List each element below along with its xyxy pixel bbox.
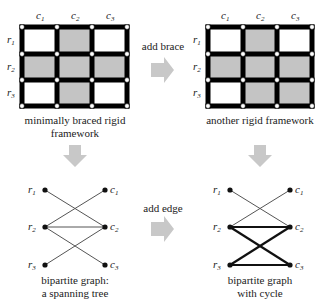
bipartite-graph-tree: r1 r2 r3 c1 c2 c3 bipartite graph: a spa… bbox=[28, 183, 119, 299]
cell-r1-c2 bbox=[243, 27, 277, 54]
bipartite-graph-cycle: r1 r2 r3 c1 c2 c3 bipartite graph with c… bbox=[213, 183, 304, 299]
node-label-r3: r3 bbox=[28, 258, 36, 272]
framework-right: c1 c2 c3 r1 r2 r3 another rigid framewor… bbox=[193, 9, 314, 126]
caption-tree-line1: bipartite graph: bbox=[41, 274, 109, 286]
col-label-c3: c3 bbox=[106, 9, 115, 23]
cell-r2-c2 bbox=[243, 54, 277, 80]
node-r3 bbox=[42, 262, 47, 267]
col-label-c3: c3 bbox=[291, 9, 300, 23]
down-arrow-icon-right bbox=[248, 145, 272, 167]
row-label-r2: r2 bbox=[7, 60, 15, 74]
arrow-add-edge: add edge bbox=[143, 202, 183, 242]
node-label-r1: r1 bbox=[28, 183, 36, 197]
node-label-r3: r3 bbox=[213, 258, 221, 272]
node-r2 bbox=[42, 224, 47, 229]
node-c1 bbox=[287, 187, 292, 192]
caption-left-line1: minimally braced rigid bbox=[25, 114, 126, 126]
node-c2 bbox=[102, 224, 107, 229]
down-arrow-icon-left bbox=[63, 145, 87, 167]
row-label-r1: r1 bbox=[193, 33, 201, 47]
node-label-c3: c3 bbox=[295, 258, 304, 272]
node-label-c2: c2 bbox=[295, 220, 304, 234]
caption-cycle-line2: with cycle bbox=[237, 287, 283, 299]
cell-r2-c3 bbox=[92, 54, 127, 80]
arrow-label-add-edge: add edge bbox=[143, 202, 183, 214]
node-r1 bbox=[42, 187, 47, 192]
arrow-label-add-brace: add brace bbox=[142, 40, 185, 52]
col-label-c2: c2 bbox=[71, 9, 80, 23]
cell-r2-c3 bbox=[277, 54, 312, 80]
row-label-r2: r2 bbox=[193, 60, 201, 74]
node-label-c3: c3 bbox=[110, 258, 119, 272]
col-label-c1: c1 bbox=[221, 9, 229, 23]
diagram-canvas: c1 c2 c3 r1 r2 r3 minimally braced rigid… bbox=[0, 0, 326, 305]
cell-r2-c1 bbox=[22, 54, 57, 80]
col-label-c2: c2 bbox=[256, 9, 265, 23]
cell-r2-c1 bbox=[208, 54, 243, 80]
caption-cycle-line1: bipartite graph bbox=[228, 274, 293, 286]
cell-r3-c2 bbox=[57, 80, 92, 106]
row-label-r1: r1 bbox=[7, 33, 15, 47]
node-r3 bbox=[227, 262, 232, 267]
row-label-r3: r3 bbox=[193, 86, 201, 100]
right-arrow-icon bbox=[151, 57, 174, 83]
node-c3 bbox=[287, 262, 292, 267]
node-label-c1: c1 bbox=[295, 183, 303, 197]
node-label-c1: c1 bbox=[110, 183, 118, 197]
node-label-c2: c2 bbox=[110, 220, 119, 234]
framework-left: c1 c2 c3 r1 r2 r3 minimally braced rigid… bbox=[7, 9, 129, 139]
right-arrow-icon bbox=[151, 216, 174, 242]
node-label-r2: r2 bbox=[28, 220, 36, 234]
node-label-r1: r1 bbox=[213, 183, 221, 197]
node-r1 bbox=[227, 187, 232, 192]
col-label-c1: c1 bbox=[36, 9, 44, 23]
cell-r2-c2 bbox=[57, 54, 92, 80]
caption-right: another rigid framework bbox=[206, 114, 314, 126]
cell-r3-c3 bbox=[277, 80, 312, 106]
caption-tree-line2: a spanning tree bbox=[42, 287, 109, 299]
cell-r1-c2 bbox=[57, 27, 92, 54]
node-label-r2: r2 bbox=[213, 220, 221, 234]
row-label-r3: r3 bbox=[7, 86, 15, 100]
caption-left-line2: framework bbox=[51, 127, 100, 139]
node-r2 bbox=[227, 224, 232, 229]
node-c1 bbox=[102, 187, 107, 192]
cell-r3-c2 bbox=[243, 80, 277, 106]
arrow-add-brace: add brace bbox=[142, 40, 185, 83]
node-c3 bbox=[102, 262, 107, 267]
node-c2 bbox=[287, 224, 292, 229]
